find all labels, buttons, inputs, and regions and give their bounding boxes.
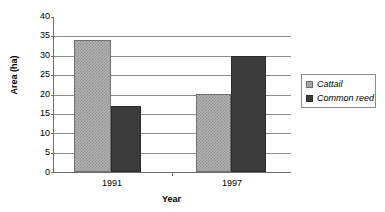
y-tick-label-40: 40	[26, 12, 50, 21]
legend-label-cattail: Cattail	[317, 79, 343, 89]
chart-legend: Cattail Common reed	[301, 74, 376, 108]
plot-area	[53, 17, 291, 173]
legend-item-cattail[interactable]: Cattail	[306, 78, 343, 90]
y-axis-title: Area (ha)	[9, 35, 19, 115]
y-axis-tick-labels: 40 35 30 25 20 15 10 5 0	[26, 10, 50, 178]
x-axis-tick-labels: 1991 1997	[53, 178, 290, 190]
y-tick-label-25: 25	[26, 70, 50, 79]
y-tick-label-35: 35	[26, 31, 50, 40]
y-tick-label-20: 20	[26, 90, 50, 99]
y-tick-label-30: 30	[26, 51, 50, 60]
bar-cattail-1997[interactable]	[196, 94, 231, 172]
legend-swatch-common-reed-icon	[306, 95, 313, 102]
y-tick-label-10: 10	[26, 129, 50, 138]
y-tick-label-15: 15	[26, 109, 50, 118]
bar-series-group	[54, 17, 291, 172]
y-tick-label-0: 0	[26, 168, 50, 177]
y-tick-label-5: 5	[26, 148, 50, 157]
legend-item-common-reed[interactable]: Common reed	[306, 92, 374, 104]
y-axis-tick-0	[51, 172, 54, 173]
x-axis-category-separator	[172, 172, 173, 176]
bar-common-reed-1991[interactable]	[111, 106, 141, 172]
x-tick-label-1997: 1997	[198, 178, 266, 188]
bar-cattail-1991[interactable]	[74, 40, 111, 172]
bar-common-reed-1997[interactable]	[231, 56, 266, 172]
legend-swatch-cattail-icon	[306, 81, 313, 88]
bar-chart-figure: Area (ha) 40 35 30 25 20 15 10 5 0	[0, 0, 385, 212]
x-axis-title: Year	[53, 194, 290, 204]
x-tick-label-1991: 1991	[78, 178, 146, 188]
legend-label-common-reed: Common reed	[317, 93, 374, 103]
